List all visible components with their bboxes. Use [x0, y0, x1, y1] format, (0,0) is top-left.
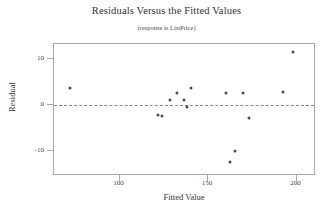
chart-subtitle: (response is ListPrice) [0, 24, 333, 31]
data-point [291, 50, 294, 53]
data-point [161, 115, 164, 118]
zero-reference-line [54, 105, 314, 106]
data-point [157, 113, 160, 116]
data-point [168, 99, 171, 102]
residuals-scatter-chart: Residuals Versus the Fitted Values (resp… [0, 0, 333, 215]
x-tick-label: 150 [202, 179, 213, 187]
data-point [189, 87, 192, 90]
data-point [224, 92, 227, 95]
data-point [241, 92, 244, 95]
data-point [282, 91, 285, 94]
data-point [233, 150, 236, 153]
y-tick-label: 10 [0, 54, 44, 62]
data-point [247, 117, 250, 120]
data-point [185, 106, 188, 109]
data-point [68, 87, 71, 90]
y-tick-label: -10 [0, 146, 44, 154]
data-point [229, 160, 232, 163]
chart-title: Residuals Versus the Fitted Values [0, 5, 333, 16]
plot-area [53, 43, 315, 175]
data-point [175, 92, 178, 95]
y-axis-title: Residual [7, 67, 17, 127]
x-axis-title: Fitted Value [53, 192, 315, 202]
data-point [182, 98, 185, 101]
x-tick-label: 100 [113, 179, 124, 187]
x-tick-label: 200 [290, 179, 301, 187]
